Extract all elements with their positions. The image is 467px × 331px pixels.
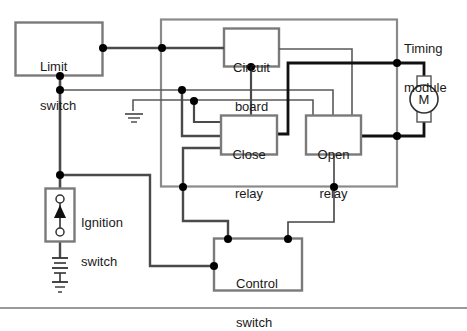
limit-switch-label: Limit switch [40, 34, 76, 125]
close-relay-label-line2: relay [221, 187, 277, 200]
battery-icon [52, 258, 68, 292]
open-relay-label-line2: relay [306, 187, 361, 200]
close-relay-label: Close relay [221, 122, 277, 213]
circuit-board-label-line1: Circuit [224, 61, 279, 74]
ignition-switch-icon [54, 195, 66, 236]
timing-module-label-line1: Timing [404, 42, 447, 55]
ignition-switch-label-line1: Ignition [81, 216, 123, 229]
ignition-switch-label-line2: switch [81, 255, 123, 268]
ignition-switch-label: Ignition switch [81, 190, 123, 281]
control-switch-label-line2: switch [236, 316, 278, 329]
motor-label: M [410, 93, 438, 106]
close-relay-label-line1: Close [221, 148, 277, 161]
control-switch-label: Control switch [236, 251, 278, 331]
control-switch-label-line1: Control [236, 277, 278, 290]
circuit-board-label-line2: board [224, 100, 279, 113]
limit-switch-label-line2: switch [40, 99, 76, 112]
limit-switch-label-line1: Limit [40, 60, 76, 73]
circuit-board-label: Circuit board [224, 35, 279, 126]
open-relay-label: Open relay [306, 122, 361, 213]
open-relay-label-line1: Open [306, 148, 361, 161]
